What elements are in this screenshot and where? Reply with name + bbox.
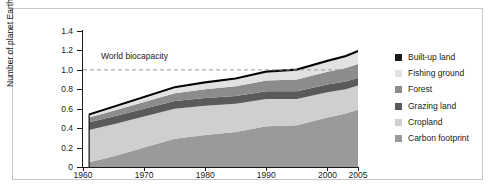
- x-tick-label: 2000: [318, 170, 337, 180]
- legend-swatch-icon: [395, 103, 402, 110]
- legend-swatch-icon: [395, 70, 402, 77]
- y-tick-label: 1.4: [61, 26, 73, 36]
- y-axis-tick: [77, 31, 82, 32]
- legend-item[interactable]: Cropland: [395, 118, 494, 127]
- y-axis-title: Number of planet Earths: [5, 0, 15, 87]
- legend-item-label: Forest: [408, 85, 432, 94]
- x-tick-label: 2005: [349, 170, 368, 180]
- y-tick-label: 1.0: [61, 65, 73, 75]
- y-tick-label: 0.4: [61, 123, 73, 133]
- y-tick-label: 0.6: [61, 104, 73, 114]
- legend-item-label: Grazing land: [408, 102, 456, 111]
- legend-item[interactable]: Built-up land: [395, 53, 494, 62]
- x-tick-label: 1990: [257, 170, 276, 180]
- y-axis-tick: [77, 128, 82, 129]
- x-tick-label: 1970: [135, 170, 154, 180]
- legend-item-label: Cropland: [408, 118, 443, 127]
- x-axis-line: [82, 167, 359, 168]
- y-axis-tick: [77, 70, 82, 71]
- legend-item-label: Carbon footprint: [408, 134, 469, 143]
- legend-swatch-icon: [395, 119, 402, 126]
- y-tick-label: 1.2: [61, 45, 73, 55]
- y-axis-tick: [77, 89, 82, 90]
- y-axis-tick: [77, 148, 82, 149]
- chart-legend: Built-up landFishing groundForestGrazing…: [395, 53, 494, 150]
- y-axis-tick: [77, 109, 82, 110]
- legend-item-label: Built-up land: [408, 53, 455, 62]
- legend-item[interactable]: Grazing land: [395, 102, 494, 111]
- y-axis-tick: [77, 167, 82, 168]
- y-tick-label: 0: [68, 162, 73, 172]
- y-axis-tick-labels: 00.20.40.60.81.01.21.4: [47, 9, 73, 193]
- y-tick-label: 0.8: [61, 84, 73, 94]
- legend-swatch-icon: [395, 86, 402, 93]
- x-tick-label: 1980: [196, 170, 215, 180]
- legend-item[interactable]: Carbon footprint: [395, 134, 494, 143]
- chart-frame: Number of planet Earths 00.20.40.60.81.0…: [12, 8, 483, 180]
- x-tick-label: 1960: [74, 170, 93, 180]
- biocapacity-annotation-label: World biocapacity: [101, 51, 168, 61]
- legend-item[interactable]: Forest: [395, 85, 494, 94]
- y-axis-tick: [77, 50, 82, 51]
- y-tick-label: 0.2: [61, 143, 73, 153]
- legend-item-label: Fishing ground: [408, 69, 464, 78]
- legend-item[interactable]: Fishing ground: [395, 69, 494, 78]
- legend-swatch-icon: [395, 135, 402, 142]
- legend-swatch-icon: [395, 54, 402, 61]
